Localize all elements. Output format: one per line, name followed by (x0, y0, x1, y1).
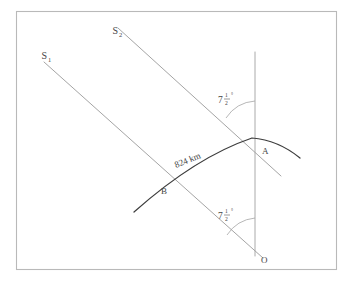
point-label-o: O (261, 255, 268, 265)
sun-ray-1-label: S (41, 50, 47, 61)
angle-top-whole: 7 (218, 95, 223, 105)
angle-bottom-whole: 7 (218, 211, 223, 221)
angle-top-numerator: 1 (225, 92, 228, 98)
point-label-a: A (262, 146, 269, 156)
sun-ray-2-subscript: 2 (119, 31, 122, 38)
angle-bottom-numerator: 1 (225, 208, 228, 214)
eratosthenes-diagram: S 1 S 2 A B O 824 km 7 1 2 ° 7 1 2 ° (0, 0, 353, 281)
angle-top-degree-symbol: ° (231, 92, 233, 98)
sun-ray-1-subscript: 1 (48, 56, 51, 63)
angle-bottom-degree-symbol: ° (231, 208, 233, 214)
angle-bottom-denominator: 2 (225, 216, 228, 222)
angle-top-denominator: 2 (225, 100, 228, 106)
diagram-canvas: S 1 S 2 A B O 824 km 7 1 2 ° 7 1 2 ° (0, 0, 353, 281)
sun-ray-2-label: S (112, 25, 118, 36)
point-label-b: B (161, 186, 167, 196)
diagram-frame (17, 12, 337, 270)
